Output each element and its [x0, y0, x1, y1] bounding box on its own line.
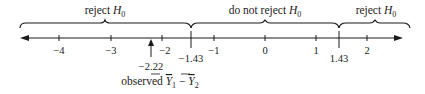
- tick-label: −1: [208, 45, 219, 56]
- tick-label: 1: [313, 45, 318, 56]
- label-right-reject: reject H0: [356, 4, 397, 19]
- label-do-not-reject: do not reject H0: [229, 4, 302, 19]
- tick-label: 2: [364, 45, 369, 56]
- brace-left-reject: [20, 20, 191, 28]
- brace-do-not-reject: [191, 20, 339, 28]
- arrow-up-icon: [148, 39, 154, 46]
- brace-right-reject: [339, 20, 410, 28]
- critical-value-left-label: −1.43: [179, 53, 203, 64]
- observed-caption: observed Y1 − Y2: [121, 75, 198, 90]
- tick-label: −4: [53, 45, 65, 56]
- critical-value-right-label: 1.43: [330, 53, 348, 64]
- arrow-left-icon: [20, 35, 29, 41]
- observed-value-label: −2.22: [139, 61, 163, 72]
- hypothesis-test-number-line: reject H0 do not reject H0 reject H0 −4 …: [0, 0, 425, 94]
- region-braces: [20, 20, 410, 28]
- tick-label: 0: [262, 45, 267, 56]
- label-left-reject: reject H0: [85, 4, 126, 19]
- tick-label: −2: [159, 45, 170, 56]
- arrow-right-icon: [394, 35, 403, 41]
- observed-marker: [148, 39, 154, 57]
- tick-label: −3: [105, 45, 116, 56]
